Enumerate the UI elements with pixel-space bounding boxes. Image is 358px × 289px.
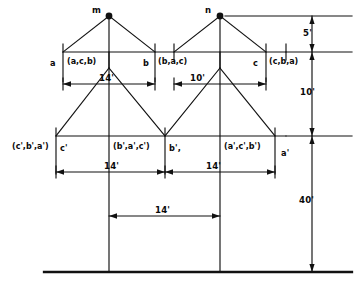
conductor-tuple-a: (a,c,b) [67, 58, 96, 66]
conductor-tuple-bp: (b',a',c') [113, 143, 150, 151]
dim-upper-10ft: 10' [190, 74, 205, 83]
node-dot-n [217, 13, 224, 20]
conductor-label-a: a [50, 59, 56, 67]
conductor-label-ap: a' [281, 149, 289, 157]
conductor-tuple-cp: (c',b',a') [12, 143, 49, 151]
conductor-tuple-c: (c,b,a) [269, 58, 298, 66]
conductor-tuple-ap: (a',c',b') [224, 143, 261, 151]
lower-dimension-line [56, 166, 275, 178]
conductor-label-b: b [143, 59, 149, 67]
conductor-tuple-b: (b,a,c) [158, 58, 187, 66]
conductor-label-bp: b', [169, 144, 181, 152]
dim-vertical-40ft: 40' [299, 196, 314, 205]
dim-bottom-14ft: 14' [155, 206, 170, 215]
node-dot-m [106, 13, 113, 20]
conductor-label-c: c [253, 59, 258, 67]
dim-lower-14ft-right: 14' [206, 162, 221, 171]
node-label-m: m [92, 6, 101, 15]
dim-upper-14ft: 14' [99, 74, 114, 83]
node-label-n: n [205, 6, 211, 15]
diagram-canvas: m n a (a,c,b) b (b,a,c) c (c,b,a) (c',b'… [0, 0, 358, 289]
dim-vertical-10ft: 10' [300, 88, 315, 97]
conductor-label-cp: c' [60, 144, 68, 152]
dim-vertical-5ft: 5' [303, 29, 312, 38]
lower-truss [56, 68, 275, 136]
dim-lower-14ft-left: 14' [104, 162, 119, 171]
